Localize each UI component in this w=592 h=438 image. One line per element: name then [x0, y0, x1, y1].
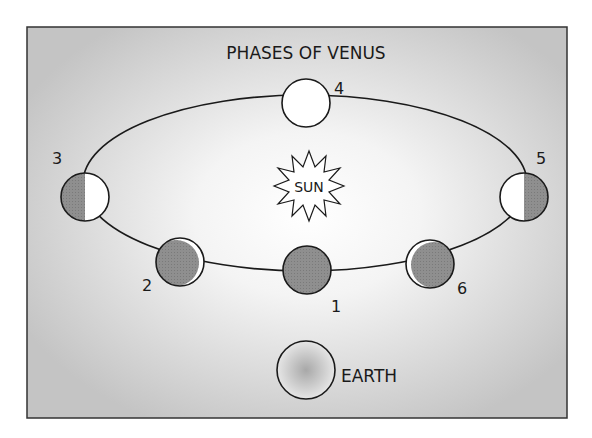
venus-phase-1	[283, 246, 331, 294]
venus-phase-5	[500, 173, 548, 221]
phase-label-5: 5	[536, 149, 546, 168]
earth-label: EARTH	[341, 366, 397, 386]
phase-label-3: 3	[52, 149, 62, 168]
phase-label-1: 1	[331, 297, 341, 316]
phase-label-6: 6	[457, 279, 467, 298]
venus-phase-3	[61, 173, 109, 221]
phase-label-4: 4	[334, 79, 344, 98]
sun-label: SUN	[294, 179, 324, 195]
earth-icon	[277, 341, 335, 399]
diagram-title: PHASES OF VENUS	[226, 43, 385, 63]
phase-label-2: 2	[142, 276, 152, 295]
venus-phase-4	[282, 79, 330, 127]
phases-of-venus-diagram: PHASES OF VENUS SUN 4 3 5 2 6 1 EARTH	[0, 0, 592, 438]
